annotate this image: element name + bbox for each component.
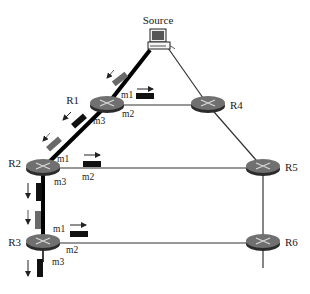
router-r5 — [246, 159, 280, 176]
packet-black — [36, 183, 42, 201]
r3-label: R3 — [8, 236, 21, 248]
multicast-network-diagram: Source R1 R2 R3 R4 R5 R6 m1 m2 m3 m1 m2 … — [0, 0, 310, 294]
r2-label: R2 — [8, 157, 21, 169]
r3-m1-label: m1 — [53, 224, 65, 234]
r3-m3-label: m3 — [52, 257, 64, 267]
packet-black — [70, 231, 88, 237]
r4-label: R4 — [230, 99, 243, 111]
r1-m2-label: m2 — [122, 109, 134, 119]
r2-m2-label: m2 — [82, 172, 94, 182]
r6-label: R6 — [285, 236, 298, 248]
router-r3 — [26, 234, 60, 251]
arrow-icon — [43, 133, 50, 141]
r2-m1-label: m1 — [57, 154, 69, 164]
r2-m3-label: m3 — [54, 177, 66, 187]
router-r6 — [246, 234, 280, 251]
r5-label: R5 — [285, 161, 298, 173]
r1-label: R1 — [66, 94, 79, 106]
r1-m1-label: m1 — [121, 90, 133, 100]
arrow-icon — [107, 70, 114, 78]
packet-black — [37, 259, 43, 277]
packet-black — [136, 93, 154, 99]
router-r2 — [26, 159, 60, 176]
source-computer: Source — [143, 14, 175, 49]
router-r1 — [90, 96, 124, 113]
thick-links — [43, 50, 150, 243]
r1-m3-label: m3 — [93, 116, 105, 126]
r3-m2-label: m2 — [66, 245, 78, 255]
arrow-icon — [63, 112, 71, 120]
packet-black — [83, 161, 101, 167]
source-label: Source — [143, 14, 174, 26]
computer-icon — [148, 29, 175, 49]
packet-gray — [35, 211, 41, 229]
router-r4 — [191, 96, 225, 113]
